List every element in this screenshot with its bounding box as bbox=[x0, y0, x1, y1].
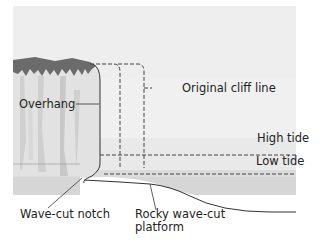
label-low-tide: Low tide bbox=[256, 155, 304, 168]
cliff bbox=[13, 66, 100, 178]
label-platform-line2: platform bbox=[135, 221, 184, 234]
label-overhang: Overhang bbox=[19, 98, 75, 111]
cliff-diagram: Original cliff line Overhang High tide L… bbox=[0, 0, 320, 248]
label-wave-cut-notch: Wave-cut notch bbox=[20, 208, 110, 221]
label-original-cliff-line: Original cliff line bbox=[182, 82, 276, 95]
label-high-tide: High tide bbox=[257, 132, 309, 145]
